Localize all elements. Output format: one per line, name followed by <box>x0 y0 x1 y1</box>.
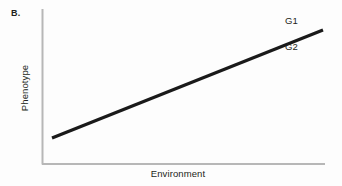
x-axis-label: Environment <box>108 169 248 179</box>
plot-area <box>0 0 342 186</box>
reaction-norm-line <box>52 30 323 138</box>
figure-panel-b: B. Phenotype Environment G1 G2 <box>0 0 342 186</box>
series-label-g1: G1 <box>285 16 298 26</box>
series-label-g2: G2 <box>285 42 298 52</box>
y-axis-label: Phenotype <box>20 28 30 148</box>
